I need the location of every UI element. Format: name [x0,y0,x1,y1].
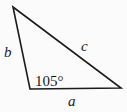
side-b-label: b [4,44,12,60]
triangle-figure: b c a 105° [0,0,127,112]
triangle-svg: b c a 105° [0,0,127,112]
side-a-label: a [68,93,76,109]
angle-105-label: 105° [35,73,64,89]
triangle-outline [13,7,121,89]
side-c-label: c [81,38,88,54]
